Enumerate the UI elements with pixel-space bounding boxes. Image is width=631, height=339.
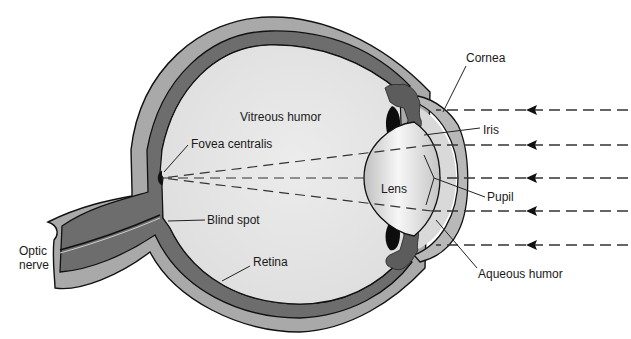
label-optic-nerve-line1: Optic [19,244,47,258]
label-lens: Lens [381,182,407,196]
cornea-leader [443,66,466,112]
label-fovea-centralis: Fovea centralis [191,137,272,151]
label-cornea: Cornea [466,51,506,65]
label-iris: Iris [483,123,499,137]
eye-diagram: Cornea Iris Vitreous humor Fovea central… [0,0,631,339]
label-blind-spot: Blind spot [207,213,260,227]
label-vitreous-humor: Vitreous humor [240,110,321,124]
label-aqueous-humor: Aqueous humor [478,267,563,281]
label-retina: Retina [253,255,288,269]
label-optic-nerve-line2: nerve [19,258,49,272]
label-pupil: Pupil [487,190,514,204]
